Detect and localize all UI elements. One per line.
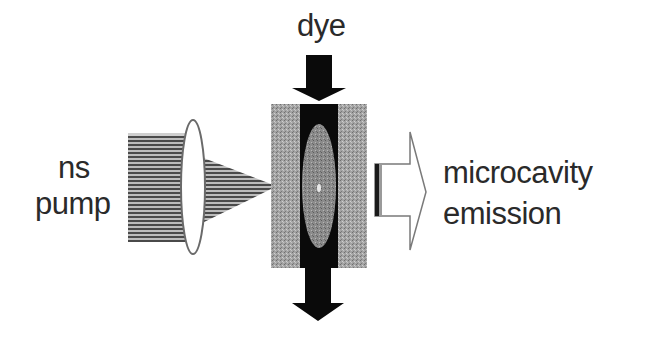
right-mirror — [338, 104, 367, 268]
emission-label-line2: emission — [443, 198, 561, 229]
emission-label-line1: microcavity — [443, 157, 593, 188]
pump-label-line1: ns — [58, 152, 90, 183]
pump-beam — [128, 133, 186, 242]
lens — [181, 120, 205, 254]
dye-out-arrow-icon — [292, 268, 344, 321]
dye-label: dye — [297, 10, 345, 41]
left-mirror — [271, 104, 300, 268]
pump-label-line2: pump — [35, 188, 111, 219]
focus-cone — [196, 155, 271, 226]
dye-in-arrow-icon — [292, 55, 346, 101]
emission-arrow-icon — [375, 132, 426, 250]
focal-spot — [317, 184, 321, 192]
microcavity — [271, 104, 367, 268]
